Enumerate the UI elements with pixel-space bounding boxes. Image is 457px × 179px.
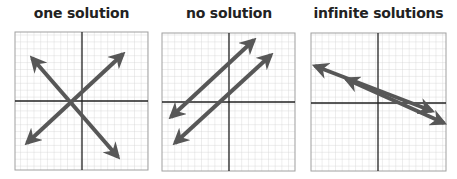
coordinate-grid-one-solution bbox=[15, 32, 148, 170]
coordinate-grid-no-solution bbox=[162, 33, 295, 171]
coordinate-grid-infinite-solutions bbox=[311, 33, 446, 171]
graphs-canvas bbox=[0, 0, 457, 179]
